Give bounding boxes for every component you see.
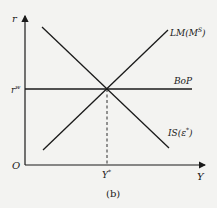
is-curve: [42, 27, 169, 148]
y-axis-label: r: [12, 13, 18, 24]
islm-bop-diagram: r Y O BoP LM(MS) IS(ε*) rw Y* (b): [0, 0, 217, 208]
is-label: IS(ε*): [167, 126, 193, 138]
figure-caption: (b): [106, 188, 120, 199]
origin-label: O: [12, 160, 20, 171]
lm-label: LM(MS): [169, 26, 206, 38]
x-axis-label: Y: [197, 171, 205, 182]
lm-curve: [43, 30, 168, 150]
world-interest-rate-label: rw: [11, 83, 21, 95]
equilibrium-output-label: Y*: [102, 168, 111, 180]
bop-label: BoP: [173, 76, 193, 86]
